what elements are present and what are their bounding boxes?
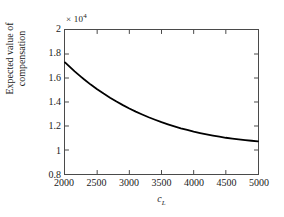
y-axis-exponent-label: × 104 [66,12,87,24]
plot-area [64,29,259,175]
y-tick-label: 1.6 [35,73,61,83]
x-tick-label: 4500 [217,178,237,188]
y-axis-exponent-power: 4 [83,12,87,20]
x-tick-label: 2000 [54,178,74,188]
x-tick-label: 3500 [152,178,172,188]
y-axis-exponent-base: × 10 [66,14,83,24]
y-tick-label: 1 [35,146,61,156]
plot-svg [65,30,258,174]
x-axis-title: cL [64,193,259,207]
data-series-line [65,62,258,141]
figure: × 104 Expected value of compensation 0.8… [0,0,284,217]
y-tick-label: 1.2 [35,121,61,131]
x-tick-label: 3000 [119,178,139,188]
y-axis-title-line1: Expected value of [4,22,15,94]
x-tick-label: 4000 [184,178,204,188]
y-axis-title-line2: compensation [15,0,27,132]
y-axis-title: Expected value of compensation [4,0,27,132]
y-tick-label: 1.4 [35,97,61,107]
x-axis-title-sub: L [162,199,166,207]
x-tick-label: 2500 [87,178,107,188]
axis-ticks [65,30,258,174]
x-tick-label: 5000 [249,178,269,188]
y-tick-label: 1.8 [35,48,61,58]
x-axis-tick-labels: 2000250030003500400045005000 [0,178,284,192]
y-tick-label: 2 [35,24,61,34]
